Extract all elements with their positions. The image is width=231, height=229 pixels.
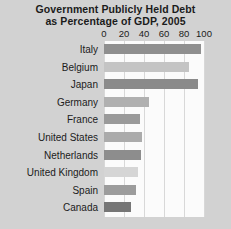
bar-row xyxy=(104,129,204,147)
bar xyxy=(104,44,201,54)
bar xyxy=(104,114,140,124)
category-label: United Kingdom xyxy=(0,164,101,182)
category-label: United States xyxy=(0,129,101,147)
x-tick-label: 60 xyxy=(159,28,170,39)
bar xyxy=(104,79,198,89)
x-axis-tick-labels: 020406080100 xyxy=(0,28,231,41)
bar xyxy=(104,62,189,72)
chart-title: Government Publicly Held Debt as Percent… xyxy=(0,0,231,27)
bar xyxy=(104,167,138,177)
category-label: Germany xyxy=(0,94,101,112)
category-labels: ItalyBelgiumJapanGermanyFranceUnited Sta… xyxy=(0,41,101,217)
category-label: France xyxy=(0,111,101,129)
bar-row xyxy=(104,182,204,200)
bar-row xyxy=(104,147,204,165)
x-tick-label: 0 xyxy=(101,28,106,39)
x-tick-label: 40 xyxy=(139,28,150,39)
bar-rows xyxy=(104,41,204,217)
x-tick-label: 100 xyxy=(196,28,212,39)
chart-container: Government Publicly Held Debt as Percent… xyxy=(0,0,231,229)
bar-row xyxy=(104,59,204,77)
x-tick-label: 80 xyxy=(179,28,190,39)
bar-row xyxy=(104,199,204,217)
x-tick-label: 20 xyxy=(119,28,130,39)
bar xyxy=(104,202,131,212)
bar xyxy=(104,97,149,107)
bar xyxy=(104,185,136,195)
category-label: Italy xyxy=(0,41,101,59)
category-label: Spain xyxy=(0,182,101,200)
bar xyxy=(104,132,142,142)
category-label: Canada xyxy=(0,199,101,217)
bar xyxy=(104,150,141,160)
category-label: Netherlands xyxy=(0,147,101,165)
plot-area: ItalyBelgiumJapanGermanyFranceUnited Sta… xyxy=(0,41,231,217)
bar-row xyxy=(104,41,204,59)
bar-row xyxy=(104,164,204,182)
bar-row xyxy=(104,94,204,112)
category-label: Belgium xyxy=(0,59,101,77)
category-label: Japan xyxy=(0,76,101,94)
chart-title-line-2: as Percentage of GDP, 2005 xyxy=(0,15,231,27)
bar-row xyxy=(104,76,204,94)
bar-row xyxy=(104,111,204,129)
gridline xyxy=(204,41,205,217)
plot-wrap xyxy=(104,41,204,217)
chart-title-line-1: Government Publicly Held Debt xyxy=(0,3,231,15)
